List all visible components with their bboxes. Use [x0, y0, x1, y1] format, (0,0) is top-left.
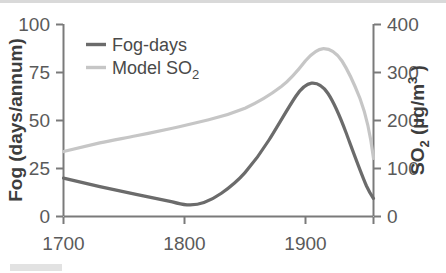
legend-label-model-so2-prefix: Model SO	[112, 58, 192, 78]
right-axis-title-close: )	[407, 65, 428, 77]
left-tick-label-100: 100	[18, 14, 50, 35]
x-tick-label-1800: 1800	[163, 233, 205, 254]
legend-label-fog-days: Fog-days	[112, 35, 187, 55]
left-tick-label-50: 50	[29, 110, 50, 131]
x-tick-label-1900: 1900	[284, 233, 326, 254]
left-tick-label-0: 0	[39, 206, 50, 227]
left-tick-label-75: 75	[29, 62, 50, 83]
left-axis-title: Fog (days/annum)	[5, 38, 26, 202]
series-line-fog-days	[64, 83, 374, 205]
left-tick-label-25: 25	[29, 158, 50, 179]
series-line-model-so2	[64, 49, 374, 159]
legend-label-model-so2: Model SO2	[112, 58, 199, 82]
right-axis-ticks	[374, 25, 381, 217]
right-axis-title-unit: µg/m	[407, 84, 428, 129]
right-tick-label-0: 0	[387, 206, 398, 227]
right-tick-label-400: 400	[387, 14, 419, 35]
right-axis-title-open: (	[407, 128, 428, 140]
legend-label-model-so2-sub: 2	[192, 67, 199, 82]
chart-figure: 100 75 50 25 0 400 300 200 100 0 1700 18…	[0, 0, 446, 273]
right-axis-title-prefix: SO	[407, 147, 428, 174]
x-axis-ticks	[64, 217, 374, 224]
right-axis-title-sup: 3	[405, 77, 420, 84]
chart-legend: Fog-days Model SO2	[86, 35, 199, 82]
right-axis-title-sub: 2	[417, 140, 432, 147]
x-tick-label-1700: 1700	[42, 233, 84, 254]
line-chart-svg: 100 75 50 25 0 400 300 200 100 0 1700 18…	[0, 0, 446, 273]
svg-text:SO2 (µg/m3 ): SO2 (µg/m3 )	[405, 65, 432, 175]
left-axis-ticks	[56, 25, 63, 217]
right-axis-title: SO2 (µg/m3 )	[405, 65, 432, 175]
